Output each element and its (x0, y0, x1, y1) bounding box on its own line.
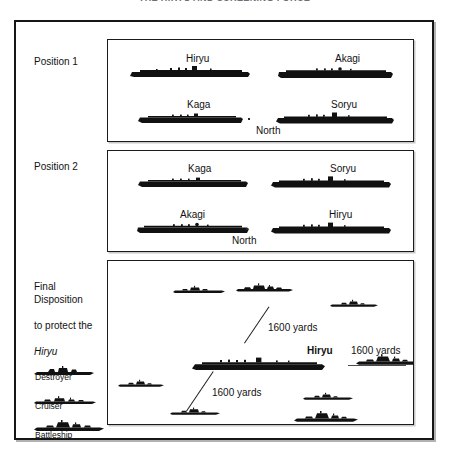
escort-battleship-bottom-right (294, 411, 358, 423)
escort-battleship-mid-right (356, 354, 414, 366)
ship-hiryu-p1 (130, 65, 250, 78)
row-label-final-line2: to protect the (34, 320, 92, 331)
escort-cruiser-top-left (173, 285, 225, 294)
ship-label-hiryu-p2: Hiryu (329, 209, 352, 220)
legend-item-cruiser: Cruiser (34, 391, 96, 409)
legend-label-battleship: Battleship (35, 430, 72, 440)
compass-label-p1: North (256, 125, 280, 136)
ship-label-akagi-p1: Akagi (335, 53, 360, 64)
ship-soryu-p2 (271, 176, 391, 189)
leader-line-upper-left (244, 307, 270, 344)
ship-akagi-p1 (278, 66, 393, 79)
escort-destroyer-bottom-left (170, 407, 220, 416)
legend-item-destroyer: Destroyer (34, 362, 94, 380)
annotation-distance-upper: 1600 yards (268, 322, 317, 333)
panel-final-disposition: 1600 yards Hiryu 1600 yards (107, 260, 414, 425)
escort-destroyer-left (118, 379, 164, 388)
leader-line-lower-left (186, 371, 214, 412)
panel-position-2: Kaga Soryu (107, 150, 414, 252)
panel-position-1: Hiryu Akagi Kag (107, 39, 414, 142)
ship-label-hiryu-p1: Hiryu (186, 53, 209, 64)
ship-kaga-p1 (138, 112, 243, 124)
ship-soryu-p1 (276, 112, 394, 125)
ship-hiryu-center (192, 357, 325, 371)
ship-label-kaga-p1: Kaga (187, 99, 210, 110)
escort-destroyer-upper-right (330, 299, 378, 308)
row-label-final-line3: Hiryu (34, 346, 57, 357)
ship-label-kaga-p2: Kaga (188, 163, 211, 174)
compass-label-p2: North (232, 235, 256, 246)
legend-label-destroyer: Destroyer (35, 372, 72, 382)
ship-label-soryu-p1: Soryu (331, 99, 357, 110)
row-label-final-line1: Final Disposition (34, 281, 83, 305)
ship-akagi-p2 (137, 222, 249, 234)
diagram-frame: Position 1 Hiryu (14, 20, 434, 440)
row-label-position-1: Position 1 (34, 55, 78, 68)
page-title: THE HIRYU AND SCREENING FORCE (0, 0, 449, 2)
annotation-distance-lower: 1600 yards (212, 387, 261, 398)
ship-hiryu-p2 (271, 222, 391, 235)
legend-label-cruiser: Cruiser (35, 401, 62, 411)
legend-item-battleship: Battleship (34, 418, 104, 436)
reference-dot-p1 (248, 118, 250, 120)
reference-dot-p2 (246, 228, 248, 230)
ship-label-akagi-p2: Akagi (180, 209, 205, 220)
row-label-position-2: Position 2 (34, 160, 78, 173)
ship-label-hiryu-center: Hiryu (307, 345, 333, 356)
ship-label-soryu-p2: Soryu (330, 163, 356, 174)
escort-cruiser-top-center (236, 283, 293, 293)
ship-kaga-p2 (138, 176, 248, 188)
escort-destroyer-bottom-right (303, 392, 353, 401)
